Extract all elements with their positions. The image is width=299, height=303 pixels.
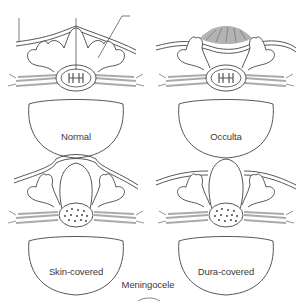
label-skin-covered: Skin-covered	[49, 266, 103, 277]
spina-bifida-diagram	[0, 0, 299, 303]
label-occulta: Occulta	[210, 131, 242, 142]
label-dura-covered: Dura-covered	[198, 266, 254, 277]
label-meningocele: Meningocele	[122, 279, 175, 290]
partial-figure-edge	[138, 298, 160, 301]
label-normal: Normal	[61, 131, 91, 142]
